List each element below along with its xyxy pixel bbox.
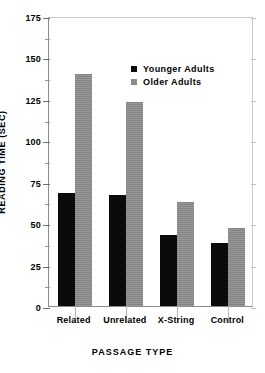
bar — [177, 202, 194, 306]
y-axis-tick-right — [251, 142, 256, 143]
y-axis-tick-label: 100 — [25, 138, 41, 147]
y-axis-tick-right — [251, 308, 256, 309]
bar — [211, 243, 228, 306]
bar — [75, 74, 92, 306]
x-axis-tick-label: Related — [57, 315, 91, 325]
y-axis-tick — [43, 267, 50, 268]
y-axis-minor-tick — [45, 122, 50, 123]
y-axis-tick — [43, 308, 50, 309]
y-axis-tick — [43, 59, 50, 60]
legend-swatch-icon — [131, 66, 137, 72]
y-axis-minor-tick — [45, 39, 50, 40]
y-axis-tick-right — [251, 59, 256, 60]
y-axis-tick-right — [251, 18, 256, 19]
bar — [228, 228, 245, 306]
legend-item: Younger Adults — [131, 62, 215, 75]
legend-item: Older Adults — [131, 75, 215, 88]
legend-item-label: Younger Adults — [143, 64, 215, 74]
y-axis-tick — [43, 101, 50, 102]
y-axis-tick-label: 75 — [31, 179, 41, 188]
y-axis-tick — [43, 142, 50, 143]
y-axis-tick-right — [251, 267, 256, 268]
y-axis-tick-right — [251, 225, 256, 226]
x-axis-tick-label: Unrelated — [103, 315, 146, 325]
y-axis-tick-label: 0 — [36, 304, 41, 313]
x-axis-title: PASSAGE TYPE — [0, 347, 265, 357]
y-axis-tick-label: 125 — [25, 96, 41, 105]
y-axis-title-label: READING TIME (SEC) — [0, 110, 7, 213]
y-axis-minor-tick — [45, 163, 50, 164]
y-axis-tick-right — [251, 101, 256, 102]
y-axis-title: READING TIME (SEC) — [0, 110, 7, 213]
chart-legend: Younger AdultsOlder Adults — [131, 62, 215, 88]
bar — [109, 195, 126, 306]
y-axis-tick-label: 25 — [31, 262, 41, 271]
bar-group — [58, 18, 92, 306]
bar — [126, 102, 143, 306]
y-axis-tick-label: 150 — [25, 55, 41, 64]
y-axis-minor-tick — [45, 287, 50, 288]
x-axis-tick-label: X-String — [158, 315, 195, 325]
bar — [160, 235, 177, 306]
y-axis-tick — [43, 184, 50, 185]
plot-area: 0255075100125150175 — [48, 17, 253, 307]
y-axis-tick-label: 175 — [25, 14, 41, 23]
y-axis-tick — [43, 18, 50, 19]
bar-chart-figure: READING TIME (SEC) 0255075100125150175 R… — [0, 0, 265, 373]
y-axis-tick-label: 50 — [31, 221, 41, 230]
y-axis-tick — [43, 225, 50, 226]
y-axis-minor-tick — [45, 204, 50, 205]
bar — [58, 193, 75, 306]
y-axis-minor-tick — [45, 246, 50, 247]
legend-item-label: Older Adults — [143, 77, 201, 87]
y-axis-minor-tick — [45, 80, 50, 81]
x-axis-tick-label: Control — [211, 315, 244, 325]
bar-group — [211, 18, 245, 306]
legend-swatch-icon — [131, 79, 137, 85]
y-axis-tick-right — [251, 184, 256, 185]
